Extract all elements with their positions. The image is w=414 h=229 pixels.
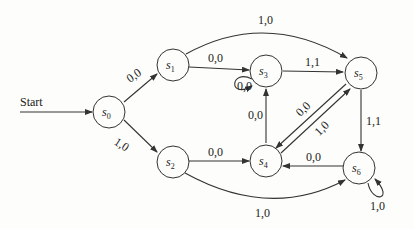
edge-s2-s6: 1,0 (185, 173, 345, 220)
state-s5: s5 (345, 57, 377, 89)
edge-s5-s6: 1,1 (361, 90, 381, 151)
svg-text:1,1: 1,1 (366, 114, 381, 128)
state-s1: s1 (157, 49, 189, 81)
svg-text:0,0: 0,0 (237, 79, 252, 93)
svg-text:1,0: 1,0 (112, 134, 132, 154)
svg-text:0,0: 0,0 (248, 108, 263, 122)
svg-text:0,0: 0,0 (124, 65, 144, 85)
edge-s6-s4: 0,0 (283, 150, 343, 166)
svg-text:0,0: 0,0 (208, 51, 223, 65)
state-s2: s2 (157, 146, 189, 178)
svg-text:1,1: 1,1 (305, 55, 320, 69)
svg-text:1,0: 1,0 (258, 13, 273, 27)
svg-text:1,0: 1,0 (311, 118, 332, 139)
edge-s2-s4: 0,0 (189, 145, 249, 161)
state-s0: s0 (93, 96, 125, 128)
state-s6: s6 (343, 152, 375, 184)
edge-s1-s3: 0,0 (189, 51, 249, 70)
svg-text:0,0: 0,0 (208, 145, 223, 159)
svg-text:1,0: 1,0 (255, 206, 270, 220)
edge-s4-s3: 0,0 (248, 89, 266, 143)
state-s3: s3 (250, 55, 282, 87)
edge-s3-self: 0,0 (235, 77, 252, 93)
start-label: Start (20, 95, 43, 109)
edge-s3-s5: 1,1 (283, 55, 343, 72)
start-arrow: Start (20, 95, 92, 112)
svg-text:1,0: 1,0 (370, 199, 385, 213)
state-s4: s4 (250, 145, 282, 177)
edge-s5-s4: 0,0 (276, 84, 346, 148)
state-diagram: Start 0,0 1,0 0,0 1,0 0,0 1,0 0,0 1,1 0,… (0, 0, 414, 229)
edge-s6-self: 1,0 (368, 179, 385, 213)
edge-s0-s1: 0,0 (124, 65, 157, 102)
edge-s4-s5: 1,0 (281, 89, 350, 153)
svg-text:0,0: 0,0 (306, 150, 321, 164)
